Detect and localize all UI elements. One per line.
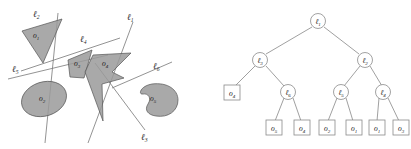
tree-node-l2[interactable]: ℓ2 xyxy=(358,53,373,68)
tree-edge-l1-l2 xyxy=(324,27,359,54)
arrangement-svg: ℓ2 ℓ1 ℓ4 ℓ5 ℓ6 ℓ3 o1 o2 xyxy=(0,0,205,149)
label-l5: ℓ5 xyxy=(12,64,19,75)
object-o5 xyxy=(140,84,178,117)
tree-edge-l5-o2 xyxy=(328,98,337,121)
tree-edge-l3-l6 xyxy=(266,66,284,86)
arrangement-panel: ℓ2 ℓ1 ℓ4 ℓ5 ℓ6 ℓ3 o1 o2 xyxy=(0,0,205,149)
tree-node-l5[interactable]: ℓ5 xyxy=(334,85,349,100)
tree-edge-l2-l4 xyxy=(370,66,382,86)
tree-edge-l4-o3 xyxy=(388,98,399,121)
tree-edge-l5-o1a xyxy=(346,98,353,121)
tree-edge-l3-o4a xyxy=(235,66,255,86)
label-l1: ℓ1 xyxy=(127,12,134,23)
tree-leaf-o1-a[interactable]: o1 xyxy=(346,120,362,135)
tree-leaf-o2[interactable]: o2 xyxy=(319,120,335,135)
tree-leaf-o4-a[interactable]: o4 xyxy=(224,85,240,100)
object-o1 xyxy=(22,19,62,63)
tree-node-l6[interactable]: ℓ6 xyxy=(281,85,296,100)
tree-leaf-o1-b[interactable]: o1 xyxy=(369,120,385,135)
label-l6: ℓ6 xyxy=(153,61,160,72)
label-l2: ℓ2 xyxy=(33,9,40,20)
bsp-tree-panel: ℓ1 ℓ3 ℓ2 ℓ6 xyxy=(205,0,411,149)
tree-leaf-o5[interactable]: o5 xyxy=(266,120,282,135)
bsp-tree-svg: ℓ1 ℓ3 ℓ2 ℓ6 xyxy=(205,0,411,149)
tree-leaf-o4-b[interactable]: o4 xyxy=(294,120,310,135)
tree-node-l4[interactable]: ℓ4 xyxy=(376,85,391,100)
tree-edge-l6-o4b xyxy=(293,98,301,121)
tree-node-l3[interactable]: ℓ3 xyxy=(253,53,268,68)
label-l4: ℓ4 xyxy=(80,34,87,45)
label-l3: ℓ3 xyxy=(141,132,148,143)
tree-node-l1[interactable]: ℓ1 xyxy=(311,14,326,29)
tree-edge-l1-l3 xyxy=(266,27,312,54)
tree-edge-l4-o1b xyxy=(377,98,379,121)
tree-leaf-o3[interactable]: o3 xyxy=(393,120,409,135)
bsp-figure: ℓ2 ℓ1 ℓ4 ℓ5 ℓ6 ℓ3 o1 o2 xyxy=(0,0,411,149)
tree-edge-l6-o5 xyxy=(275,98,284,121)
tree-edge-l2-l5 xyxy=(344,66,360,86)
